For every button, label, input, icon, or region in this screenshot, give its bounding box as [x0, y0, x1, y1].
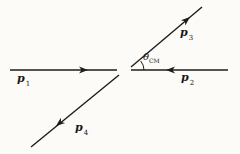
p3-label-subscript: 3 — [189, 34, 193, 42]
diagram-canvas — [0, 0, 240, 154]
cm-scattering-diagram: p1 p2 p3 p4 θCM — [0, 0, 240, 154]
p2-label: p2 — [181, 72, 193, 83]
p3-label-base: p — [180, 26, 188, 39]
p4-label: p4 — [75, 122, 87, 133]
theta-cm-label: θCM — [143, 52, 160, 62]
p2-label-base: p — [181, 71, 189, 84]
p3-label: p3 — [180, 27, 192, 38]
theta-label-subscript: CM — [149, 57, 160, 64]
p2-label-subscript: 2 — [190, 79, 194, 87]
p1-label-base: p — [17, 72, 25, 85]
p4-label-subscript: 4 — [84, 129, 88, 137]
p1-label-subscript: 1 — [26, 80, 30, 88]
theta-angle-arc — [141, 61, 144, 70]
p1-label: p1 — [17, 73, 29, 84]
p4-label-base: p — [75, 121, 83, 134]
p4-vector-line — [31, 75, 119, 147]
